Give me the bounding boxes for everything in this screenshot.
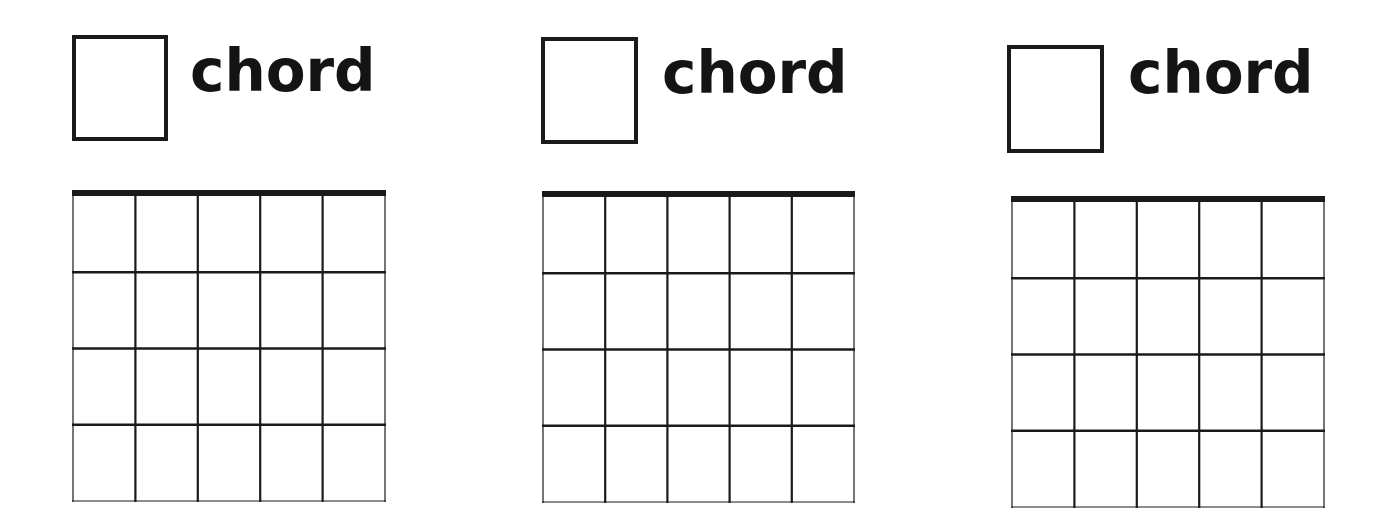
chord-label: chord — [662, 44, 848, 102]
fretboard-lines — [542, 191, 855, 503]
chord-label: chord — [1128, 44, 1314, 102]
nut — [1011, 196, 1325, 202]
chord-name-box[interactable] — [1007, 45, 1104, 153]
nut — [72, 190, 386, 196]
chord-name-box[interactable] — [541, 37, 638, 144]
fretboard-grid[interactable] — [1011, 196, 1325, 508]
fretboard-lines — [72, 190, 386, 502]
chord-name-box[interactable] — [72, 35, 168, 141]
chord-label: chord — [190, 42, 376, 100]
fretboard-grid[interactable] — [72, 190, 386, 502]
nut — [542, 191, 855, 197]
fretboard-lines — [1011, 196, 1325, 508]
fretboard-grid[interactable] — [542, 191, 855, 503]
